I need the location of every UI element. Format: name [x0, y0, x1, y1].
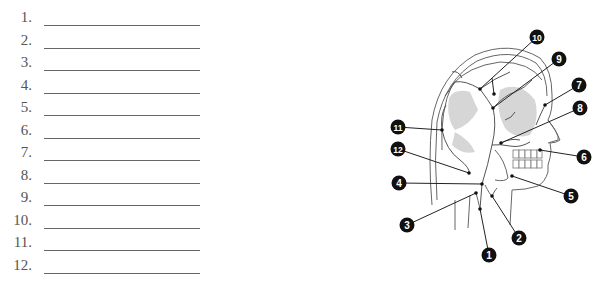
callout-6: 6	[538, 148, 591, 164]
callout-4: 4	[392, 176, 484, 191]
callout-label: 12	[393, 145, 403, 155]
callout-label: 7	[576, 80, 582, 91]
callout-1: 1	[478, 207, 496, 262]
callout-label: 6	[581, 152, 587, 163]
callout-label: 10	[532, 33, 542, 43]
callout-label: 1	[486, 250, 492, 261]
callout-5: 5	[510, 174, 578, 203]
callout-label: 9	[556, 54, 562, 65]
callout-label: 8	[577, 103, 583, 114]
callout-label: 5	[568, 191, 574, 202]
teeth	[513, 150, 542, 168]
callout-label: 11	[394, 123, 403, 133]
callout-label: 4	[396, 178, 402, 189]
head-neck-diagram: 1 2 3 4 5 6 7 8	[0, 0, 610, 290]
callout-label: 3	[404, 220, 410, 231]
callout-label: 2	[516, 233, 522, 244]
callout-2: 2	[490, 194, 526, 245]
callout-3: 3	[400, 191, 478, 232]
